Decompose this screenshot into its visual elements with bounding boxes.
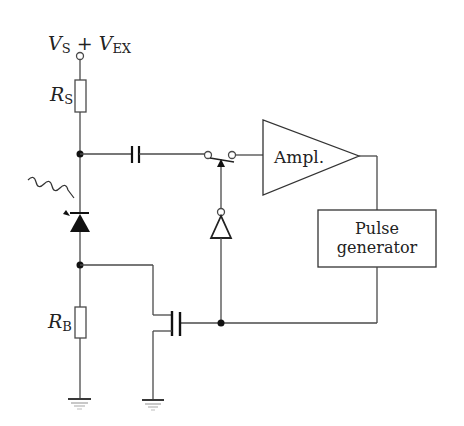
supply-label: VS + VEX (48, 32, 132, 56)
resistor-rs (75, 80, 86, 112)
pulse-generator-label-line2: generator (337, 238, 418, 257)
rb-label: RB (47, 310, 72, 334)
pulse-generator-label-line1: Pulse (355, 219, 399, 238)
ground-right (142, 400, 164, 410)
resistor-rb (75, 307, 86, 338)
switch (205, 152, 236, 163)
coupling-capacitor (132, 146, 139, 163)
circuit-diagram: VS + VEX RS RB Ampl. Pulse generator (0, 0, 464, 426)
photodiode (70, 213, 90, 232)
amplifier-label: Ampl. (273, 147, 324, 167)
inverter (211, 209, 231, 239)
junction-node-gate (218, 320, 225, 327)
fet-transistor (172, 311, 180, 336)
ground-left (68, 399, 91, 409)
light-wave-icon (28, 177, 74, 198)
rs-label: RS (49, 83, 73, 107)
